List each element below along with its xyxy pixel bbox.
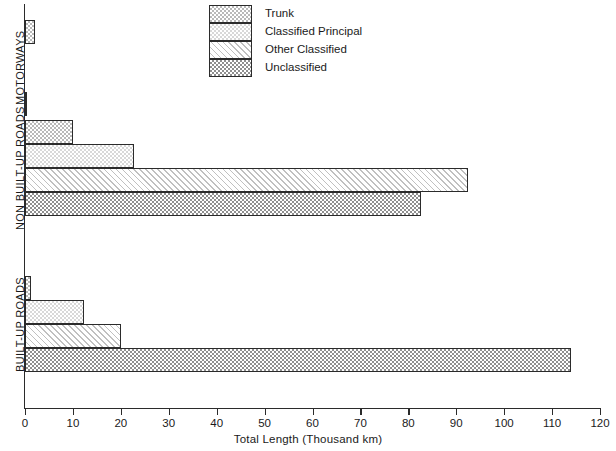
legend-swatch (209, 41, 252, 59)
bar (25, 324, 121, 348)
x-axis-tick-label: 110 (543, 417, 561, 429)
x-axis-tick (169, 409, 170, 415)
group-label-1: MOTORWAYS (14, 31, 26, 105)
x-axis-tick (25, 409, 26, 415)
legend-label: Trunk (265, 7, 294, 19)
x-axis-tick-label: 90 (450, 417, 463, 429)
x-axis-tick-label: 10 (67, 417, 80, 429)
x-axis-tick (504, 409, 505, 415)
x-axis-tick-label: 60 (306, 417, 319, 429)
bar (25, 120, 73, 144)
bar (25, 348, 571, 372)
group-label-2: NON BUILT-UP ROADS (14, 106, 26, 230)
x-axis-tick (600, 409, 601, 415)
bar (25, 144, 134, 168)
x-axis-tick-label: 40 (210, 417, 223, 429)
legend-label: Unclassified (265, 61, 327, 73)
legend-label: Classified Principal (265, 25, 362, 37)
x-axis-tick (73, 409, 74, 415)
x-axis-tick (360, 409, 361, 415)
bar (25, 300, 84, 324)
group-label-3: BUILT-UP ROADS (14, 277, 26, 372)
x-axis-tick (265, 409, 266, 415)
x-axis-tick-label: 120 (590, 417, 609, 429)
x-axis-tick (121, 409, 122, 415)
x-axis-tick-label: 20 (114, 417, 127, 429)
bar (25, 20, 35, 44)
legend-label: Other Classified (265, 43, 347, 55)
x-axis-tick (456, 409, 457, 415)
legend-swatch (209, 5, 252, 23)
x-axis-tick-label: 30 (162, 417, 175, 429)
x-axis-tick (313, 409, 314, 415)
x-axis-tick (408, 409, 409, 415)
x-axis-tick (217, 409, 218, 415)
legend-swatch (209, 23, 252, 41)
x-axis-title: Total Length (Thousand km) (0, 433, 616, 445)
bar (25, 192, 421, 216)
bar (25, 168, 468, 192)
x-axis-tick (552, 409, 553, 415)
x-axis-tick-label: 50 (258, 417, 271, 429)
legend-swatch (209, 59, 252, 77)
x-axis-tick-label: 70 (354, 417, 367, 429)
x-axis-tick-label: 80 (402, 417, 415, 429)
x-axis-tick-label: 100 (495, 417, 514, 429)
x-axis-tick-label: 0 (22, 417, 28, 429)
horizontal-bar-chart: 0102030405060708090100110120 MOTORWAYSNO… (0, 0, 616, 451)
